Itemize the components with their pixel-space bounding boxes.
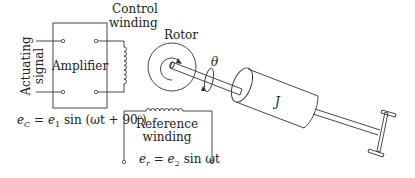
damper-top-plate [381,110,396,117]
amplifier-label: Amplifier [51,59,109,73]
reference-winding-line1: Reference [136,117,198,131]
reference-voltage-equation: er = e2 sin ωt [139,152,220,168]
reference-terminal-left [122,160,125,163]
actuating-signal-line1: Actuating [19,36,33,96]
inertia-label: J [272,95,281,109]
rotor-outer-circle [148,43,196,91]
rotor-label: Rotor [164,28,198,42]
actuating-signal-line2: signal [32,48,46,85]
input-terminal-top [61,39,64,42]
reference-winding-line2: winding [143,130,192,144]
output-terminal-top [94,39,97,42]
output-terminal-bottom [94,90,97,93]
rotor [148,43,196,91]
servomotor-diagram: Amplifier Actuating signal Control windi… [0,0,415,178]
output-shaft [313,109,380,135]
control-winding-line2: winding [109,16,158,30]
actuating-signal-label: Actuating signal [19,36,46,96]
load-inertia-cylinder: J [227,65,318,128]
control-coil-icon [124,47,127,84]
reference-coil-icon [146,108,183,111]
damper-stem [377,112,388,152]
amplifier-block: Amplifier [36,23,124,108]
control-winding-coil [124,41,127,92]
theta-label: θ [211,55,219,69]
damper-bottom-plate [368,149,384,157]
control-winding-line1: Control [112,2,158,16]
theta-arrowhead-icon [201,86,206,91]
input-terminal-bottom [61,90,64,93]
control-voltage-equation: eC = e1 sin (ωt + 90o) [17,113,147,129]
